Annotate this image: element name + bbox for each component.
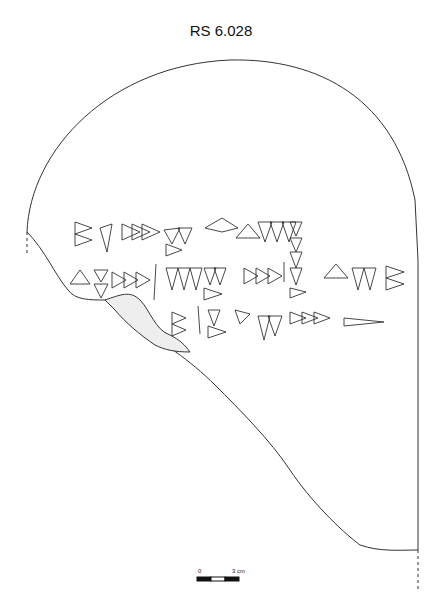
tablet-outline: [27, 60, 418, 550]
damaged-area: [105, 294, 190, 352]
inscription-line-1: [75, 218, 302, 268]
inscription-line-3: [172, 306, 384, 340]
scale-end-label: 3 cm: [232, 568, 245, 574]
scale-bar: [197, 577, 239, 581]
scale-start-label: 0: [198, 568, 201, 574]
tablet-drawing: [0, 0, 442, 611]
inscription-line-2: [70, 262, 404, 300]
broken-edge: [27, 232, 418, 550]
